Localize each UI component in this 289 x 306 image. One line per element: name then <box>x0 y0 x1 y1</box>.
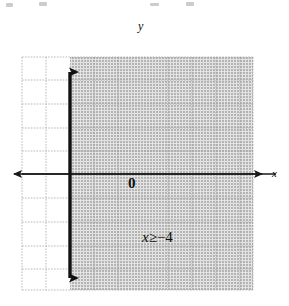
inequality-value: −4 <box>157 229 173 245</box>
inequality-variable: x <box>142 229 149 245</box>
y-axis-label: y <box>138 20 143 32</box>
x-axis-label: x <box>272 168 277 179</box>
origin-label: 0 <box>128 176 136 191</box>
inequality-graph-figure: y x 0 x≥−4 <box>0 0 289 306</box>
inequality-annotation: x≥−4 <box>142 230 173 245</box>
coordinate-plane <box>0 0 289 306</box>
inequality-relation-symbol: ≥ <box>149 229 157 245</box>
